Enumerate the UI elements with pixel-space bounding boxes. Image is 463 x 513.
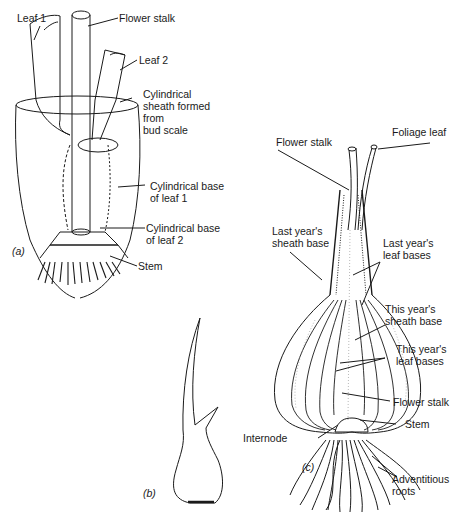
panel-c-drawing [274,143,430,512]
panel-label-c: (c) [302,461,314,473]
label-stem-c: Stem [405,418,430,430]
label-leaf-2: Leaf 2 [139,54,168,66]
panel-b-drawing [174,318,223,503]
bulb-diagram-figure: (a) (b) (c) Leaf 1 Flower stalk Leaf 2 C… [0,0,463,513]
label-flower-stalk-a: Flower stalk [119,12,175,24]
label-this-years-sheath-base: This year's sheath base [385,303,442,327]
label-stem-a: Stem [138,260,163,272]
label-adventitious-roots: Adventitious roots [392,473,449,497]
label-cylindrical-base-leaf-2: Cylindrical base of leaf 2 [146,222,220,246]
label-flower-stalk-c-bottom: Flower stalk [393,396,449,408]
label-leaf-1: Leaf 1 [17,12,46,24]
panel-label-b: (b) [143,487,156,499]
panel-a-drawing [16,11,145,298]
label-internode: Internode [243,432,287,444]
panel-label-a: (a) [12,245,25,257]
label-foliage-leaf: Foliage leaf [392,126,446,138]
label-cylindrical-sheath: Cylindrical sheath formed from bud scale [143,88,210,136]
label-last-years-sheath-base: Last year's sheath base [272,225,329,249]
label-this-years-leaf-bases: This year's leaf bases [396,343,446,367]
label-cylindrical-base-leaf-1: Cylindrical base of leaf 1 [150,180,224,204]
label-last-years-leaf-bases: Last year's leaf bases [383,237,433,261]
label-flower-stalk-c-top: Flower stalk [276,136,332,148]
